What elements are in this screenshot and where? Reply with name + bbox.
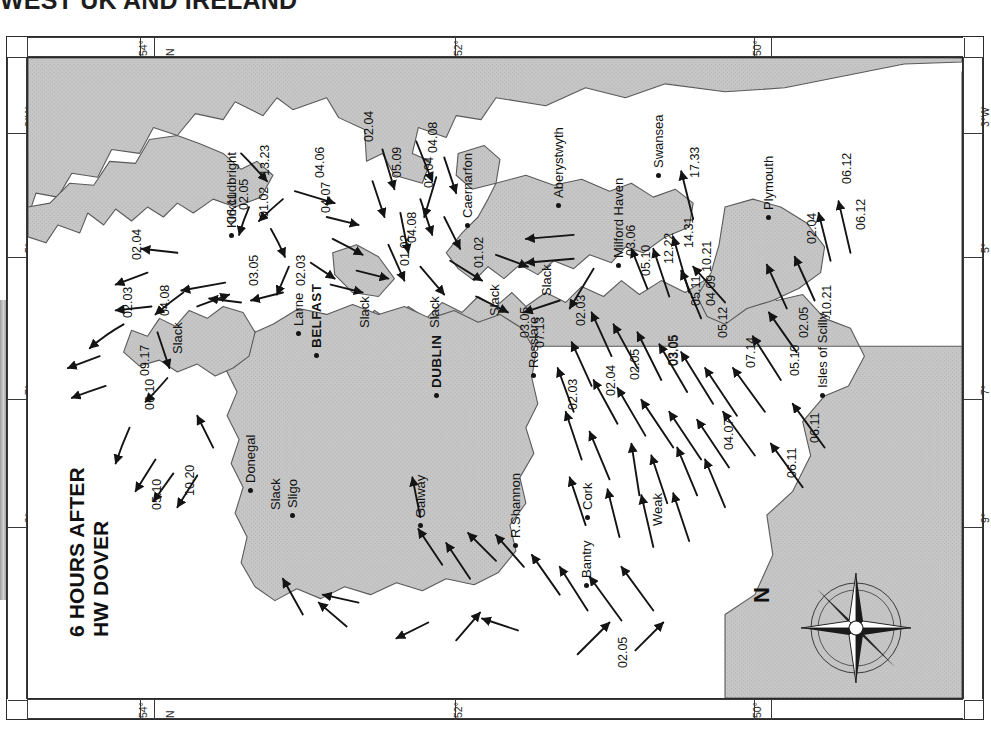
tidal-rate-label: 10.21 [820,285,834,316]
tidal-rate-label: 04.08 [158,285,172,316]
place-marker-dot [766,215,771,220]
place-marker-dot [616,263,621,268]
tidal-rate-label: 04.06 [313,147,327,178]
tidal-rate-label: 04.09 [704,275,718,306]
place-label: Cork [580,483,595,510]
tidal-rate-label: 05.09 [390,147,404,178]
tidal-rate-label: 02.05 [797,307,811,338]
page-header-title: WEST UK AND IRELAND [0,0,560,16]
compass-rose-icon [793,565,919,691]
tidal-rate-label: 02.04 [604,365,618,396]
place-marker-dot [434,393,439,398]
lat-tick-54-bottom: 54° [137,702,149,718]
slack-label: Slack [357,296,372,328]
place-marker-dot [556,203,561,208]
tidal-rate-label: 02.03 [566,379,580,410]
place-label: Isles of Scilly [815,313,830,388]
place-label: Plymouth [761,156,776,210]
place-marker-dot [465,223,470,228]
tidal-rate-label: 05.12 [716,307,730,338]
place-label: Donegal [243,435,258,483]
place-marker-dot [314,353,319,358]
lat-tick-50-bottom: 50° [751,702,763,718]
tidal-rate-label: 04.08 [426,122,440,153]
tidal-rate-label: 02.05 [616,637,630,668]
compass-north-label: N [749,587,775,603]
tidal-rate-label: 06.11 [808,413,822,443]
tidal-rate-label: 17.33 [688,147,702,178]
place-marker-dot [513,543,518,548]
graticule-ruler-right: 3°W 5° 7° 9° [963,57,983,699]
lat-north-marker-top: N [164,48,176,56]
place-marker-dot [296,331,301,336]
tidal-rate-label: 10.21 [700,241,714,272]
graticule-ruler-bottom: 54° N 52° 50° [27,699,963,719]
place-label: Swansea [651,115,666,168]
tidal-rate-label: 05.10 [150,479,164,510]
lat-north-marker-bottom: N [164,710,176,718]
place-marker-dot [531,373,536,378]
tidal-rate-label: 02.03 [121,287,135,318]
tidal-rate-label: 03.05 [667,335,681,366]
place-label: BELFAST [309,284,324,348]
tidal-rate-label: 01.02 [472,237,486,268]
tidal-rate-label: 06.12 [854,199,868,230]
slack-label: Slack [268,478,283,510]
place-marker-dot [820,393,825,398]
tidal-rate-label: 02.04 [805,213,819,244]
tidal-rate-label: 02.03 [574,295,588,326]
place-label: Larne [291,293,306,326]
place-label: Galway [413,475,428,518]
slack-label: Slack [427,296,442,328]
lon-tick-3w-right: 3°W [979,107,991,127]
lat-tick-54: 54° [137,40,149,56]
place-marker-dot [584,583,589,588]
tidal-rate-label: 02.04 [130,229,144,260]
tidal-rate-label: 04.07 [319,182,333,213]
chart-title-line1: 6 HOURS AFTER [65,467,89,637]
tidal-rate-label: 05.10 [788,345,802,376]
place-marker-dot [229,233,234,238]
tidal-rate-label: 10.20 [183,465,197,496]
lat-tick-52: 52° [452,40,464,56]
place-marker-dot [248,488,253,493]
place-label: Aberystwyth [551,127,566,198]
tidal-rate-label: 09.17 [138,345,152,376]
place-marker-dot [656,173,661,178]
place-label: R.Shannon [508,473,523,538]
graticule-ruler-top: 54° N 52° 50° [27,37,963,57]
place-marker-dot [418,523,423,528]
slack-label: Slack [170,322,185,354]
tidal-rate-label: 04.07 [722,419,736,450]
chart-title: 6 HOURS AFTER HW DOVER [65,467,112,637]
tidal-rate-label: 06.10 [143,379,157,410]
lon-tick-7-right: 7° [979,385,991,395]
graticule-ruler-left: 3°W 5° 7° 9° [7,57,27,699]
tidal-rate-label: 03.06 [624,225,638,256]
tidal-rate-label: 12.22 [662,233,676,264]
chart-frame: 54° N 52° 50° 54° N 52° 50° 3°W 5° 7° 9° [6,36,984,720]
place-label: DUBLIN [429,335,444,388]
chart-title-line2: HW DOVER [89,467,113,637]
tidal-rate-label: 02.05 [237,179,251,210]
lat-tick-50: 50° [751,40,763,56]
tidal-rate-label: 01.02 [398,235,412,266]
tidal-rate-label: 02.05 [628,349,642,380]
place-marker-dot [290,513,295,518]
tidal-rate-label: 07.14 [744,337,758,368]
lon-tick-5-right: 5° [979,243,991,253]
lat-tick-52-bottom: 52° [452,702,464,718]
stream-strength-label: Weak [650,493,665,526]
tidal-rate-label: 07.13 [533,317,547,348]
tidal-rate-label: 06.11 [225,193,239,223]
tidal-rate-label: 06.11 [785,448,799,478]
tidal-rate-label: 13.23 [258,145,272,176]
place-label: Bantry [579,540,594,578]
tidal-rate-label: 02.04 [422,157,436,188]
lon-tick-9-right: 9° [979,513,991,523]
tidal-rate-label: 14.31 [682,217,696,248]
tidal-rate-label: 05.10 [639,245,653,276]
tidal-rate-label: 02.04 [362,111,376,142]
tidal-rate-label: 01.02 [257,187,271,218]
place-label: Sligo [285,479,300,508]
